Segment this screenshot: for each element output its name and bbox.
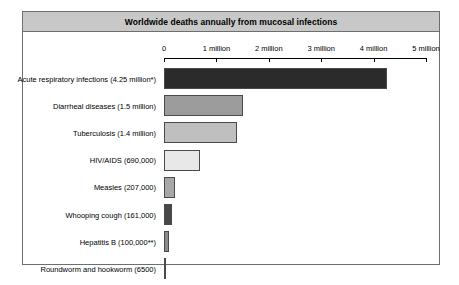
x-axis-tick-label: 2 million xyxy=(255,44,283,53)
bar xyxy=(164,68,387,89)
x-axis-line xyxy=(164,58,426,59)
bar-row: Roundworm and hookworm (6500) xyxy=(23,258,439,279)
bar-row: Diarrheal diseases (1.5 million) xyxy=(23,95,439,116)
chart-frame: Worldwide deaths annually from mucosal i… xyxy=(22,11,440,265)
x-axis-tick xyxy=(216,58,217,62)
bar-row: Hepatitis B (100,000**) xyxy=(23,231,439,252)
bar xyxy=(164,204,172,225)
x-axis-tick-label: 3 million xyxy=(307,44,335,53)
x-axis-tick-label: 4 million xyxy=(360,44,388,53)
bar xyxy=(164,122,237,143)
x-axis-tick xyxy=(269,58,270,62)
bar-category-label: Measles (207,000) xyxy=(94,183,156,192)
bar xyxy=(164,231,169,252)
x-axis-tick xyxy=(164,58,165,62)
x-axis-tick xyxy=(321,58,322,62)
chart-title: Worldwide deaths annually from mucosal i… xyxy=(125,17,337,27)
bar-category-label: Acute respiratory infections (4.25 milli… xyxy=(18,74,156,83)
bar-row: Acute respiratory infections (4.25 milli… xyxy=(23,68,439,89)
bar xyxy=(164,258,166,279)
x-axis: 01 million2 million3 million4 million5 m… xyxy=(164,58,426,59)
bar-category-label: Tuberculosis (1.4 million) xyxy=(73,128,156,137)
x-axis-tick xyxy=(426,58,427,62)
bar-category-label: Diarrheal diseases (1.5 million) xyxy=(53,101,156,110)
bar xyxy=(164,177,175,198)
bar xyxy=(164,95,243,116)
bar-row: Whooping cough (161,000) xyxy=(23,204,439,225)
bar-category-label: Roundworm and hookworm (6500) xyxy=(41,264,156,273)
plot-area: 01 million2 million3 million4 million5 m… xyxy=(23,32,439,264)
bar-row: Tuberculosis (1.4 million) xyxy=(23,122,439,143)
chart-title-bar: Worldwide deaths annually from mucosal i… xyxy=(23,12,439,32)
bar-row: HIV/AIDS (690,000) xyxy=(23,150,439,171)
bar-row: Measles (207,000) xyxy=(23,177,439,198)
bar-category-label: Hepatitis B (100,000**) xyxy=(80,237,156,246)
bar-category-label: Whooping cough (161,000) xyxy=(66,210,156,219)
x-axis-tick xyxy=(374,58,375,62)
bar xyxy=(164,150,200,171)
x-axis-tick-label: 1 million xyxy=(203,44,231,53)
x-axis-tick-label: 0 xyxy=(162,44,166,53)
bar-category-label: HIV/AIDS (690,000) xyxy=(90,156,156,165)
x-axis-tick-label: 5 million xyxy=(412,44,440,53)
